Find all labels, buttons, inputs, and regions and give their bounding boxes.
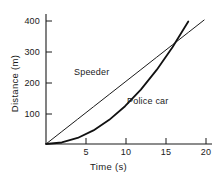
plot-area [0, 0, 217, 178]
y-axis-label: Distance (m) [9, 46, 20, 122]
series-curve-police-car [46, 22, 188, 144]
series-label-police-car: Police car [127, 96, 169, 106]
x-tick-label-20: 20 [201, 147, 211, 157]
y-tick-label-400: 400 [14, 16, 40, 26]
series-line-speeder [46, 20, 204, 144]
x-tick-label-5: 5 [83, 147, 88, 157]
x-tick-label-15: 15 [161, 147, 171, 157]
x-tick-label-10: 10 [121, 147, 131, 157]
x-axis-label: Time (s) [0, 161, 217, 172]
distance-time-chart: 400 300 200 100 5 10 15 20 Distance (m) … [0, 0, 217, 178]
series-label-speeder: Speeder [74, 67, 109, 77]
